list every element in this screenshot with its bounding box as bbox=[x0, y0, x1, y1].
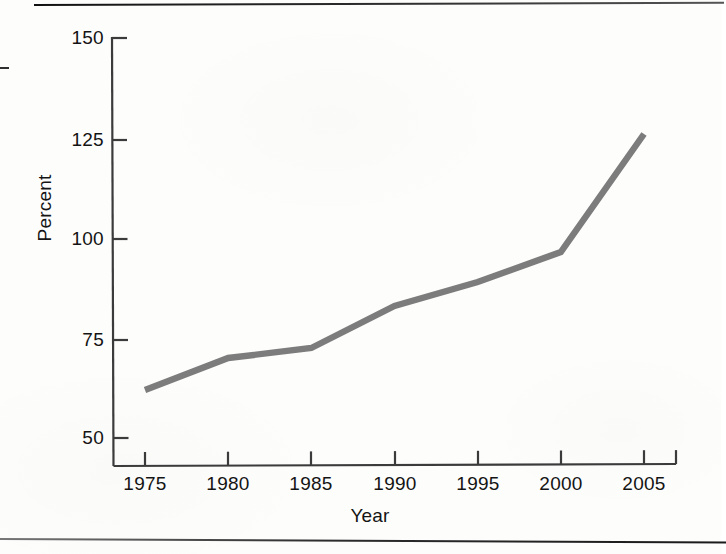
y-axis-title: Percent bbox=[34, 158, 56, 258]
y-tick-label-125: 125 bbox=[42, 129, 104, 151]
x-tick-label-2000: 2000 bbox=[521, 473, 601, 495]
y-tick-label-150: 150 bbox=[42, 27, 104, 49]
y-axis-line bbox=[112, 37, 114, 466]
y-tick-label-75: 75 bbox=[42, 329, 104, 351]
axis-lines bbox=[112, 37, 676, 466]
x-tick-label-1985: 1985 bbox=[271, 473, 351, 495]
y-tick-label-50: 50 bbox=[42, 427, 104, 449]
y-axis-ticks bbox=[112, 38, 129, 438]
x-tick-label-2005: 2005 bbox=[604, 473, 684, 495]
x-tick-label-1995: 1995 bbox=[438, 473, 518, 495]
x-tick-label-1990: 1990 bbox=[355, 473, 435, 495]
x-axis-title: Year bbox=[310, 505, 430, 527]
x-tick-label-1975: 1975 bbox=[105, 473, 185, 495]
data-series-line bbox=[145, 134, 644, 390]
x-tick-label-1980: 1980 bbox=[188, 473, 268, 495]
